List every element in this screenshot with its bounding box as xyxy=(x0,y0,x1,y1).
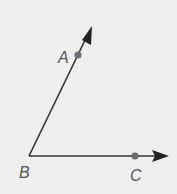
ray-ba xyxy=(29,26,92,156)
label-b: B xyxy=(19,164,30,181)
point-a xyxy=(74,51,81,58)
point-c xyxy=(131,152,138,159)
angle-abc-diagram: A B C xyxy=(0,0,177,194)
label-c: C xyxy=(130,167,142,184)
ray-bc xyxy=(29,150,169,162)
label-a: A xyxy=(57,49,69,66)
